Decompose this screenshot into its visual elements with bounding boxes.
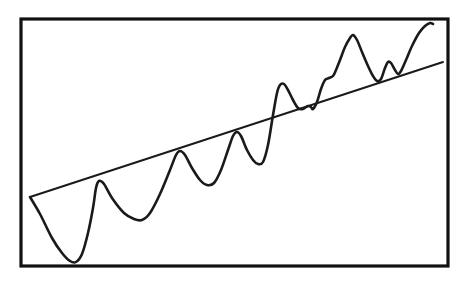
figure-root: Hand-drawn sketch: a sawtooth-like oscil… <box>0 0 472 281</box>
trend-line <box>30 62 443 197</box>
sketch-canvas <box>0 0 472 281</box>
plot-border <box>21 19 448 266</box>
oscillating-curve <box>30 23 433 263</box>
